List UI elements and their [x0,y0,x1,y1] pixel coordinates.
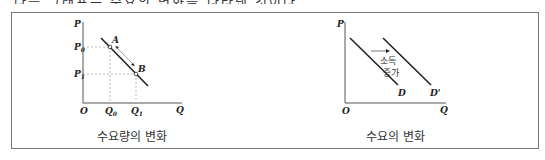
right-panel: P 소득 증가 D D' O Q 수요의 변화 [336,19,448,144]
arrow-down-icon [131,63,135,66]
shift-label-increase: 증가 [383,68,399,78]
left-caption: 수요량의 변화 [97,130,167,144]
point-b-label: B [137,64,146,74]
left-q1-label: Q1 [131,106,143,117]
shift-label-income: 소득 [380,56,396,66]
left-axis-p-label: P [73,19,81,29]
left-p0-label: P0 [73,42,86,53]
left-q0-label: Q0 [105,106,118,117]
shift-arrow-icon [386,49,390,53]
left-axis-q-label: Q [176,105,184,115]
right-axis-q-label: Q [440,105,448,115]
arrow-up-icon [115,46,119,49]
right-caption: 수요의 변화 [366,130,425,144]
left-origin-label: O [80,106,88,116]
point-a-label: A [111,35,119,45]
curve-d-prime-label: D' [429,88,441,98]
point-a-marker [108,45,112,49]
left-panel: P P0 P1 A B O Q0 Q1 Q 수요량의 변화 [73,19,184,144]
right-origin-label: O [342,106,350,116]
diagram-canvas: P P0 P1 A B O Q0 Q1 Q 수요량의 변화 P 소득 증가 D … [0,0,545,160]
demand-curve [101,38,148,86]
right-axis-p-label: P [336,19,344,29]
curve-d-label: D [397,88,406,98]
